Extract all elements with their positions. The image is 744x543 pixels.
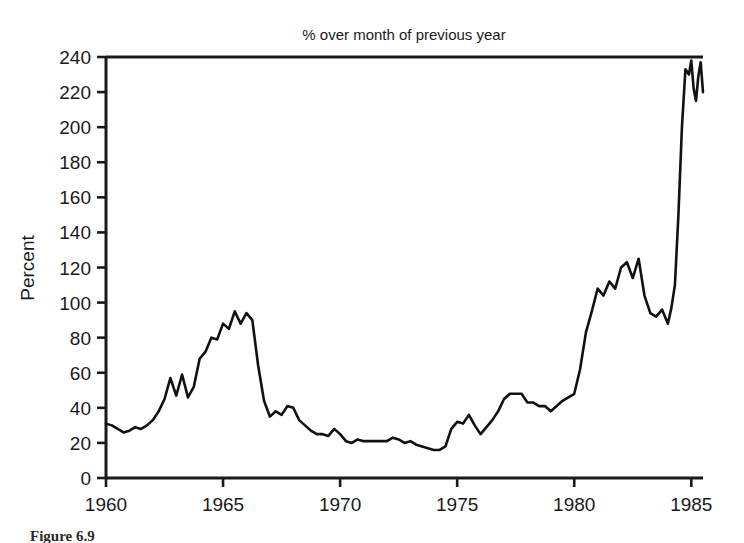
y-tick-label: 160: [59, 187, 91, 208]
y-tick-label: 200: [59, 117, 91, 138]
x-tick-label: 1960: [85, 494, 127, 515]
y-tick-label: 0: [80, 468, 91, 489]
x-tick-label: 1965: [202, 494, 244, 515]
figure-caption: Figure 6.9: [30, 528, 95, 543]
x-tick-label: 1985: [670, 494, 712, 515]
plot-axes: [106, 57, 703, 478]
data-series-line: [106, 61, 703, 450]
x-tick-label: 1980: [553, 494, 595, 515]
line-chart: % over month of previous year Percent 02…: [0, 0, 744, 543]
y-tick-label: 120: [59, 258, 91, 279]
y-tick-label: 20: [70, 433, 91, 454]
y-tick-label: 180: [59, 152, 91, 173]
y-tick-label: 240: [59, 47, 91, 68]
y-axis-title: Percent: [17, 235, 38, 301]
chart-title: % over month of previous year: [302, 26, 505, 43]
x-tick-label: 1975: [436, 494, 478, 515]
y-axis-ticks: 020406080100120140160180200220240: [59, 47, 106, 489]
figure-container: % over month of previous year Percent 02…: [0, 0, 744, 543]
y-tick-label: 40: [70, 398, 91, 419]
y-tick-label: 80: [70, 328, 91, 349]
y-tick-label: 60: [70, 363, 91, 384]
x-axis-ticks: 196019651970197519801985: [85, 478, 713, 515]
y-tick-label: 220: [59, 82, 91, 103]
y-tick-label: 140: [59, 222, 91, 243]
y-tick-label: 100: [59, 293, 91, 314]
x-tick-label: 1970: [319, 494, 361, 515]
